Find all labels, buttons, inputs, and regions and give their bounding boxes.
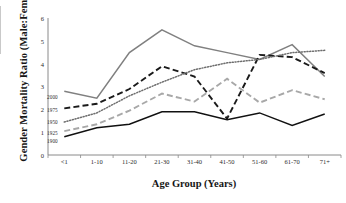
chart-figure: Gender Mortality Ratio (Male:Fema 012345…: [0, 0, 346, 203]
y-tick-label: 4: [28, 61, 44, 68]
y-tick-label: 5: [28, 38, 44, 45]
y-tick-label: 0: [28, 152, 44, 159]
series-label-1975: 1975: [47, 107, 58, 113]
y-tick-label: 6: [28, 15, 44, 22]
x-tick-label: 71+: [305, 158, 345, 166]
series-line-2000: [64, 30, 324, 98]
series-label-1925: 1925: [47, 130, 58, 136]
y-tick-label: 3: [28, 83, 44, 90]
series-line-1975: [64, 55, 324, 119]
chart-plot-area: [0, 0, 346, 203]
y-tick-label: 2: [28, 106, 44, 113]
series-label-2000: 2000: [47, 94, 58, 100]
series-line-1900: [64, 112, 324, 137]
x-axis-title: Age Group (Years): [48, 178, 340, 189]
chart-axes: [48, 18, 341, 158]
y-tick-label: 1: [28, 129, 44, 136]
series-label-1950: 1950: [47, 119, 58, 125]
series-label-1900: 1900: [47, 138, 58, 144]
chart-series-group: [64, 30, 324, 137]
